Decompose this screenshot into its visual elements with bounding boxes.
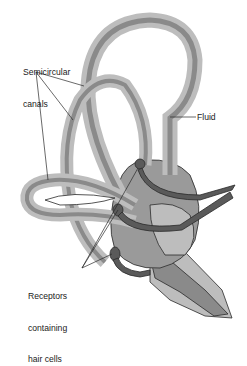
label-receptors-line3: hair cells <box>28 354 67 365</box>
label-semicircular-canals: Semicircular canals <box>23 46 70 120</box>
label-receptors: Receptors containing hair cells <box>28 270 67 366</box>
receptor-top <box>135 159 145 169</box>
label-receptors-line1: Receptors <box>28 291 67 302</box>
label-fluid: Fluid <box>197 112 216 123</box>
vestibular-body <box>111 160 232 318</box>
label-receptors-line2: containing <box>28 323 67 334</box>
label-canals-line1: Semicircular <box>23 67 70 78</box>
label-canals-line2: canals <box>23 99 70 110</box>
